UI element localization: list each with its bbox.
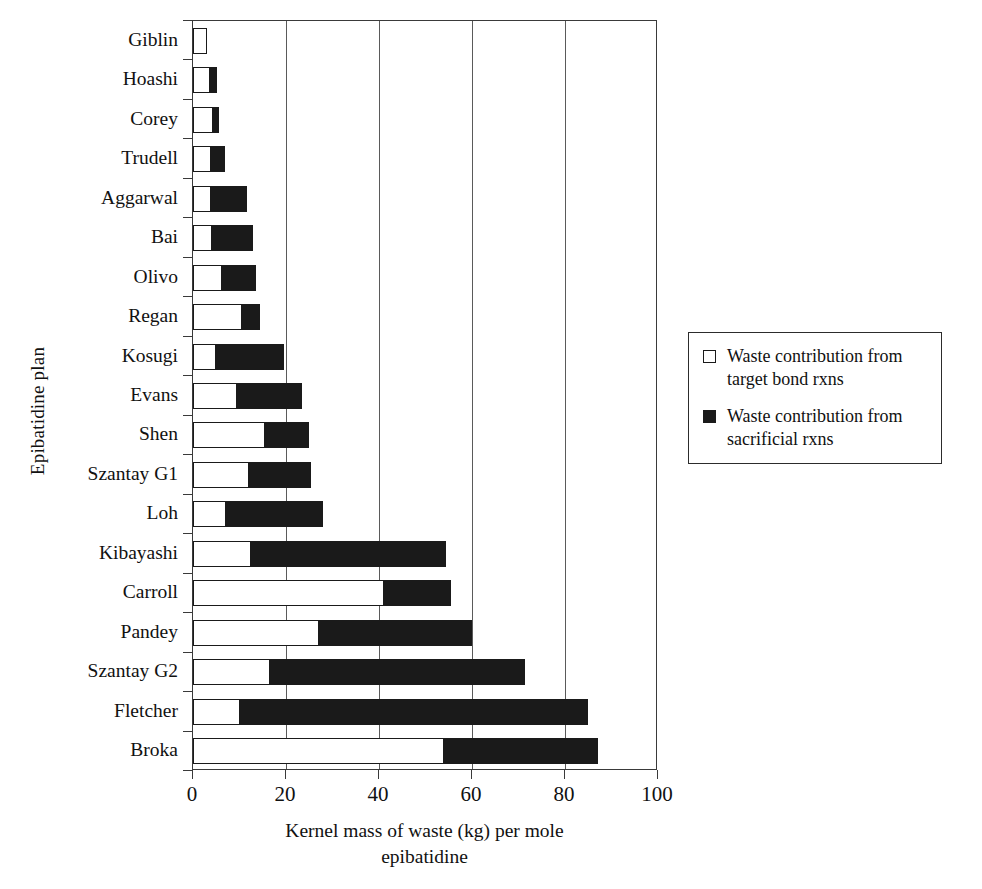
bar-segment-target-bond [193, 620, 319, 646]
y-axis-tick [183, 494, 192, 495]
y-axis-tick [183, 20, 192, 21]
legend-label-sacrificial: Waste contribution from sacrificial rxns [727, 405, 903, 451]
bar-segment-target-bond [193, 659, 270, 685]
category-label: Broka [130, 740, 178, 760]
category-label: Szantay G1 [88, 464, 178, 484]
black-square-icon [703, 410, 716, 423]
y-axis-tick [183, 99, 192, 100]
bar-row [193, 541, 658, 567]
bar-segment-sacrificial [249, 462, 311, 488]
bar-segment-target-bond [193, 580, 384, 606]
x-axis-tick-label: 40 [368, 782, 389, 807]
bar-row [193, 107, 658, 133]
category-label: Hoashi [123, 69, 178, 89]
bar-row [193, 146, 658, 172]
bar-row [193, 462, 658, 488]
y-axis-tick [183, 612, 192, 613]
category-label: Carroll [123, 582, 178, 602]
bar-row [193, 67, 658, 93]
x-axis-tick-label: 20 [275, 782, 296, 807]
category-label: Bai [151, 227, 178, 247]
bar-row [193, 344, 658, 370]
bar-segment-target-bond [193, 462, 249, 488]
y-axis-tick [183, 217, 192, 218]
white-square-icon [703, 350, 716, 363]
y-axis-tick [183, 691, 192, 692]
y-axis-tick [183, 731, 192, 732]
y-axis-tick [183, 533, 192, 534]
bar-segment-target-bond [193, 422, 265, 448]
x-axis-tick-label: 80 [554, 782, 575, 807]
bar-segment-target-bond [193, 304, 242, 330]
bar-row [193, 501, 658, 527]
bar-segment-target-bond [193, 383, 237, 409]
bar-row [193, 580, 658, 606]
category-axis-labels: GiblinHoashiCoreyTrudellAggarwalBaiOlivo… [40, 20, 186, 770]
category-label: Giblin [128, 30, 178, 50]
bar-segment-target-bond [193, 28, 207, 54]
bar-segment-sacrificial [210, 67, 217, 93]
x-axis-tick [564, 770, 565, 779]
y-axis-tick [183, 336, 192, 337]
bar-row [193, 738, 658, 764]
x-axis-tick-label: 0 [187, 782, 198, 807]
bar-segment-sacrificial [212, 225, 253, 251]
x-axis-tick [471, 770, 472, 779]
y-axis-tick [183, 257, 192, 258]
category-label: Szantay G2 [88, 661, 178, 681]
bar-row [193, 186, 658, 212]
category-label: Fletcher [114, 701, 178, 721]
bar-row [193, 620, 658, 646]
bar-segment-target-bond [193, 738, 444, 764]
bar-segment-target-bond [193, 67, 210, 93]
category-label: Kibayashi [99, 543, 178, 563]
bar-segment-target-bond [193, 146, 211, 172]
bar-row [193, 225, 658, 251]
category-label: Olivo [134, 267, 178, 287]
bar-segment-target-bond [193, 699, 240, 725]
y-axis-tick [183, 652, 192, 653]
bar-segment-sacrificial [251, 541, 446, 567]
x-axis-tick [378, 770, 379, 779]
bar-segment-sacrificial [444, 738, 597, 764]
bar-segment-sacrificial [319, 620, 472, 646]
x-axis-title: Kernel mass of waste (kg) per mole epiba… [192, 818, 657, 871]
bar-row [193, 659, 658, 685]
x-axis-tick-label: 100 [641, 782, 673, 807]
category-label: Shen [139, 424, 178, 444]
bar-segment-sacrificial [211, 186, 247, 212]
y-axis-tick [183, 138, 192, 139]
bar-segment-sacrificial [222, 265, 255, 291]
y-axis-tick [183, 296, 192, 297]
bar-segment-target-bond [193, 225, 212, 251]
bar-row [193, 304, 658, 330]
x-axis-tick [657, 770, 658, 779]
x-axis-title-line2: epibatidine [192, 844, 657, 870]
x-axis-tick-label: 60 [461, 782, 482, 807]
y-axis-tick [183, 59, 192, 60]
bar-row [193, 422, 658, 448]
y-axis-tick [183, 770, 192, 771]
bar-row [193, 28, 658, 54]
bar-segment-sacrificial [211, 146, 225, 172]
bar-segment-target-bond [193, 107, 213, 133]
category-label: Loh [147, 503, 178, 523]
bar-segment-sacrificial [240, 699, 589, 725]
category-label: Trudell [121, 148, 178, 168]
legend-item-target-bond: Waste contribution from target bond rxns [703, 345, 929, 391]
bar-row [193, 265, 658, 291]
bar-segment-target-bond [193, 265, 222, 291]
category-label: Regan [128, 306, 178, 326]
bar-segment-target-bond [193, 501, 226, 527]
x-axis-title-line1: Kernel mass of waste (kg) per mole [192, 818, 657, 844]
bar-segment-sacrificial [242, 304, 261, 330]
chart-figure: Epibatidine plan GiblinHoashiCoreyTrudel… [0, 0, 982, 889]
legend: Waste contribution from target bond rxns… [688, 332, 942, 464]
bar-row [193, 383, 658, 409]
bar-segment-target-bond [193, 344, 216, 370]
legend-label-target-bond: Waste contribution from target bond rxns [727, 345, 903, 391]
bar-segment-sacrificial [270, 659, 526, 685]
category-label: Kosugi [122, 346, 178, 366]
x-axis-tick [285, 770, 286, 779]
bar-segment-sacrificial [237, 383, 302, 409]
